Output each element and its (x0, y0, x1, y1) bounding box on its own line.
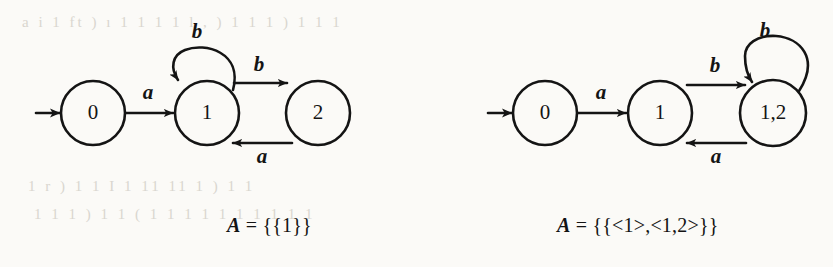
state-label-0-left: 0 (88, 100, 99, 124)
edge-label-a-0-1-left: a (143, 80, 154, 104)
caption-right: A = {{<1>,<1,2>}} (557, 214, 719, 237)
edge-label-b-1-2-left: b (254, 52, 265, 76)
edge-self-loop-12-right (745, 36, 808, 91)
caption-right-variable: A (557, 214, 571, 236)
caption-left: A = {{1}} (227, 214, 312, 237)
state-label-1-right: 1 (655, 100, 666, 124)
caption-right-equals: = (576, 214, 587, 236)
caption-left-equals: = (246, 214, 257, 236)
caption-left-variable: A (227, 214, 241, 236)
edge-label-b-1-12-right: b (710, 53, 721, 77)
state-label-1-left: 1 (202, 100, 213, 124)
state-label-2-left: 2 (313, 100, 324, 124)
edge-label-a-0-1-right: a (596, 80, 607, 104)
edge-self-loop-1-left (173, 47, 234, 90)
state-label-0-right: 0 (540, 100, 551, 124)
figure-canvas: a i 1 ft ) ı 1 1 1 1 l , ) 1 1 1 ) 1 1 1… (0, 0, 833, 267)
edge-label-b-loop-left: b (192, 19, 203, 43)
edge-label-a-2-1-left: a (257, 144, 268, 168)
edge-label-b-loop-right: b (760, 18, 771, 42)
caption-left-value: {{1}} (262, 214, 311, 236)
state-label-12-right: 1,2 (760, 100, 786, 124)
caption-right-value: {{<1>,<1,2>}} (592, 214, 718, 236)
edge-label-a-12-1-right: a (711, 144, 722, 168)
